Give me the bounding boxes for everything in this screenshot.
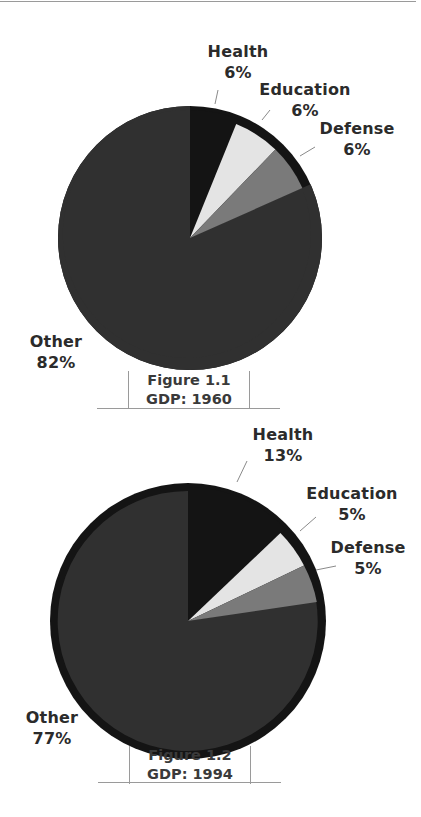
caption-title: Figure 1.1: [129, 371, 249, 390]
label-name: Other: [17, 707, 87, 728]
label-name: Other: [21, 331, 91, 352]
pie1-label-other: Other 82%: [21, 331, 91, 373]
pie-chart-1994: [50, 461, 336, 759]
pie2-label-other: Other 77%: [17, 707, 87, 749]
figure-1-2-caption: Figure 1.2 GDP: 1994: [129, 746, 251, 784]
label-name: Education: [302, 483, 402, 504]
pie2-label-defense: Defense 5%: [318, 537, 418, 579]
pie2-label-education: Education 5%: [302, 483, 402, 525]
pie1-label-defense: Defense 6%: [307, 118, 407, 160]
label-pct: 5%: [318, 558, 418, 579]
pie-chart-1960: [58, 90, 322, 370]
pie2-label-health: Health 13%: [248, 424, 318, 466]
label-name: Defense: [307, 118, 407, 139]
caption-rule: [98, 782, 281, 783]
label-pct: 5%: [302, 504, 402, 525]
caption-subtitle: GDP: 1960: [129, 390, 249, 409]
caption-rule: [97, 408, 280, 409]
label-name: Defense: [318, 537, 418, 558]
label-pct: 77%: [17, 728, 87, 749]
caption-title: Figure 1.2: [130, 746, 250, 765]
label-name: Education: [255, 79, 355, 100]
label-pct: 6%: [307, 139, 407, 160]
label-name: Health: [203, 41, 273, 62]
label-pct: 13%: [248, 445, 318, 466]
label-name: Health: [248, 424, 318, 445]
figure-1-1-caption: Figure 1.1 GDP: 1960: [128, 371, 250, 409]
pie1-label-health: Health 6%: [203, 41, 273, 83]
pie1-label-education: Education 6%: [255, 79, 355, 121]
label-pct: 82%: [21, 352, 91, 373]
